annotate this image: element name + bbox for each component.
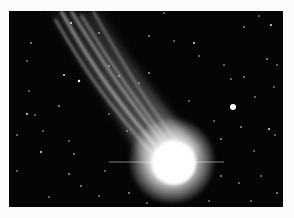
- comet-photo: Comet photograph: [9, 11, 283, 207]
- comet-illustration: [9, 11, 283, 207]
